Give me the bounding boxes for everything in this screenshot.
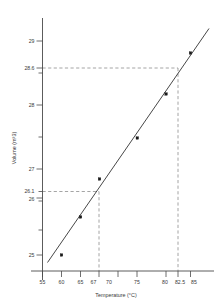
axis-lines [31, 18, 214, 280]
data-point-60 [60, 254, 63, 257]
y-tick-label-28-6: 28.6 [24, 65, 34, 71]
data-point-80 [165, 93, 168, 96]
best-fit-line [48, 29, 210, 263]
x-tick-label-65: 65 [78, 279, 84, 285]
volume-temperature-line-chart: 55 60 65 67 70 75 80 82.5 85 29 [0, 0, 221, 305]
chart-container: 55 60 65 67 70 75 80 82.5 85 29 [0, 0, 221, 305]
x-tick-label-55: 55 [40, 279, 46, 285]
x-axis-title: Temperature (°C) [95, 292, 137, 298]
x-tick-label-67: 67 [91, 279, 97, 285]
x-tick-label-80: 80 [162, 279, 168, 285]
x-tick-label-85: 85 [191, 279, 197, 285]
y-tick-label-26-1: 26.1 [24, 188, 34, 194]
y-tick-label-25: 25 [29, 252, 35, 258]
y-tick-label-27: 27 [29, 166, 35, 172]
x-tick-label-75: 75 [134, 279, 140, 285]
x-tick-labels: 55 60 65 67 70 75 80 82.5 85 [40, 279, 197, 285]
y-axis-title: Volume (m³3) [11, 132, 17, 165]
x-tick-label-70: 70 [106, 279, 112, 285]
y-tick-labels: 29 28.6 28 27 26.1 26 25 [24, 38, 34, 258]
x-tick-label-82-5: 82.5 [175, 279, 185, 285]
y-tick-label-26: 26 [29, 196, 35, 202]
x-tick-marks [43, 271, 191, 277]
y-tick-marks [37, 41, 43, 255]
data-point-85 [189, 52, 192, 55]
data-point-70 [98, 178, 101, 181]
data-point-75 [136, 137, 139, 140]
y-tick-label-29: 29 [29, 38, 35, 44]
x-tick-label-60: 60 [59, 279, 65, 285]
data-point-65 [79, 216, 82, 219]
y-tick-label-28: 28 [29, 102, 35, 108]
